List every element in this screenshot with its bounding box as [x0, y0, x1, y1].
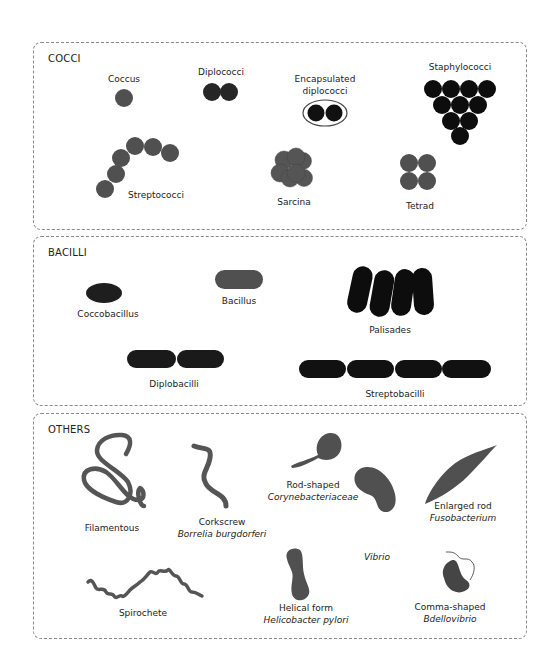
label-enlarged-rod: Enlarged rod Fusobacterium: [430, 500, 497, 524]
label-coccobacillus: Coccobacillus: [77, 308, 138, 320]
tetrad-icon: [400, 154, 436, 190]
coccus-icon: [115, 89, 133, 107]
label-encapsulated-line2: diplococci: [303, 85, 348, 97]
helical-form-icon: [286, 548, 309, 600]
label-vibrio: Vibrio: [364, 551, 390, 563]
label-filamentous: Filamentous: [85, 522, 139, 534]
label-diplobacilli: Diplobacilli: [149, 378, 198, 390]
label-palisades: Palisades: [369, 324, 411, 336]
label-rod-shaped: Rod-shaped Corynebacteriaceae: [268, 479, 359, 503]
coccobacillus-icon: [86, 283, 122, 303]
corkscrew-icon: [194, 446, 226, 506]
label-spirochete: Spirochete: [119, 607, 167, 619]
label-helical-form-species: Helicobacter pylori: [264, 614, 349, 626]
vibrio-icon: [354, 467, 395, 512]
staphylococci-icon: [424, 80, 496, 145]
label-corkscrew: Corkscrew Borrelia burgdorferi: [178, 516, 267, 540]
streptobacilli-icon: [299, 360, 491, 378]
label-encapsulated-line1: Encapsulated: [295, 73, 356, 85]
label-vibrio-name: Vibrio: [364, 551, 390, 563]
filamentous-icon: [84, 435, 144, 506]
label-sarcina: Sarcina: [277, 196, 310, 208]
label-helical-form-name: Helical form: [279, 603, 333, 613]
label-enlarged-rod-species: Fusobacterium: [430, 512, 497, 524]
label-tetrad: Tetrad: [406, 200, 434, 212]
label-corkscrew-name: Corkscrew: [199, 517, 246, 527]
label-streptococci: Streptococci: [128, 189, 184, 201]
bacillus-icon: [215, 270, 263, 289]
rod-shaped-icon: [291, 433, 342, 468]
label-rod-shaped-name: Rod-shaped: [286, 480, 339, 490]
label-comma-shaped-name: Comma-shaped: [415, 602, 486, 612]
label-comma-shaped: Comma-shaped Bdellovibrio: [415, 601, 486, 625]
encapsulated-diplococci-icon: [303, 100, 347, 126]
label-enlarged-rod-name: Enlarged rod: [434, 501, 492, 511]
sarcina-icon: [271, 148, 313, 187]
palisades-icon: [345, 264, 434, 318]
label-coccus: Coccus: [108, 73, 140, 85]
diplococci-icon: [203, 83, 238, 101]
diplobacilli-icon: [127, 350, 224, 368]
spirochete-icon: [88, 570, 202, 598]
label-corkscrew-species: Borrelia burgdorferi: [178, 528, 267, 540]
morphology-artwork: [0, 0, 556, 669]
enlarged-rod-icon: [425, 445, 497, 504]
label-diplococci: Diplococci: [198, 66, 244, 78]
label-bacillus: Bacillus: [222, 295, 257, 307]
label-staphylococci: Staphylococci: [429, 61, 491, 73]
comma-shaped-icon: [443, 552, 474, 592]
label-rod-shaped-species: Corynebacteriaceae: [268, 491, 359, 503]
label-helical-form: Helical form Helicobacter pylori: [264, 602, 349, 626]
label-comma-shaped-species: Bdellovibrio: [415, 613, 486, 625]
label-streptobacilli: Streptobacilli: [365, 388, 424, 400]
